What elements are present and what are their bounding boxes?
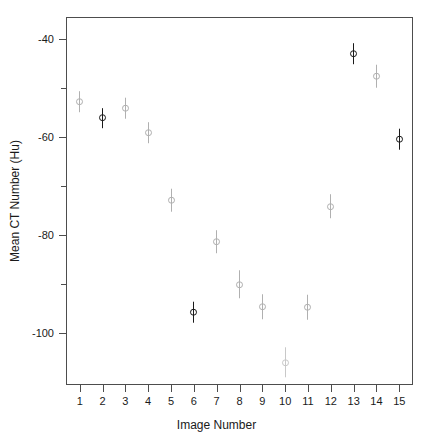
point-marker	[145, 129, 152, 136]
y-axis-title: Mean CT Number (Hu)	[3, 0, 27, 402]
x-tick-mark	[354, 385, 355, 392]
data-point	[392, 129, 406, 150]
y-tick-label: -60	[38, 131, 54, 143]
point-marker	[259, 303, 266, 310]
x-axis-title-text: Image Number	[177, 418, 256, 432]
y-tick-label: -100	[32, 327, 54, 339]
x-tick-mark	[125, 385, 126, 392]
data-point	[141, 122, 155, 144]
x-tick-label: 11	[302, 395, 313, 407]
point-marker	[373, 73, 380, 80]
x-tick-mark	[308, 385, 309, 392]
x-tick-label: 8	[236, 395, 242, 407]
x-tick-mark	[148, 385, 149, 392]
y-tick-mark	[59, 137, 66, 138]
x-tick-mark	[399, 385, 400, 392]
x-tick-label: 13	[348, 395, 360, 407]
point-marker	[213, 238, 220, 245]
point-marker	[190, 309, 197, 316]
x-axis-title: Image Number	[0, 418, 433, 432]
data-point	[301, 295, 315, 320]
x-tick-label: 3	[122, 395, 128, 407]
y-tick-label: -40	[38, 33, 54, 45]
x-tick-mark	[194, 385, 195, 392]
data-point	[73, 91, 87, 113]
x-tick-mark	[171, 385, 172, 392]
point-marker	[327, 203, 334, 210]
x-tick-label: 2	[99, 395, 105, 407]
x-tick-label: 9	[259, 395, 265, 407]
x-tick-label: 12	[325, 395, 337, 407]
data-point	[164, 189, 178, 212]
y-tick-mark	[59, 39, 66, 40]
x-tick-mark	[376, 385, 377, 392]
x-tick-mark	[217, 385, 218, 392]
data-point	[255, 294, 269, 320]
x-tick-label: 10	[279, 395, 291, 407]
point-marker	[236, 281, 243, 288]
data-point	[187, 302, 201, 323]
point-marker	[304, 303, 311, 310]
x-tick-label: 14	[370, 395, 382, 407]
point-marker	[99, 115, 106, 122]
x-tick-label: 7	[214, 395, 220, 407]
y-axis-title-text: Mean CT Number (Hu)	[8, 140, 22, 262]
x-tick-mark	[285, 385, 286, 392]
data-point	[96, 108, 110, 128]
point-marker	[168, 197, 175, 204]
x-tick-mark	[262, 385, 263, 392]
data-point	[347, 43, 361, 65]
data-point	[369, 65, 383, 88]
data-point	[118, 98, 132, 119]
point-marker	[282, 359, 289, 366]
data-point	[233, 271, 247, 298]
x-tick-mark	[103, 385, 104, 392]
y-tick-mark	[59, 235, 66, 236]
x-tick-label: 6	[191, 395, 197, 407]
x-tick-mark	[331, 385, 332, 392]
y-tick-mark	[59, 333, 66, 334]
point-marker	[350, 50, 357, 57]
plot-area: -40-60-80-100 123456789101112131415	[66, 17, 413, 385]
y-tick-mark	[61, 88, 66, 89]
point-marker	[396, 136, 403, 143]
x-tick-label: 15	[393, 395, 405, 407]
x-tick-label: 4	[145, 395, 151, 407]
data-point	[210, 230, 224, 254]
x-tick-mark	[80, 385, 81, 392]
y-tick-mark	[61, 186, 66, 187]
x-tick-label: 5	[168, 395, 174, 407]
point-marker	[76, 98, 83, 105]
data-point	[324, 195, 338, 219]
y-tick-mark	[61, 284, 66, 285]
ct-number-scatter-figure: Mean CT Number (Hu) -40-60-80-100 123456…	[0, 0, 433, 445]
y-tick-label: -80	[38, 229, 54, 241]
x-tick-mark	[240, 385, 241, 392]
point-marker	[122, 105, 129, 112]
data-point	[278, 348, 292, 377]
x-tick-label: 1	[77, 395, 83, 407]
